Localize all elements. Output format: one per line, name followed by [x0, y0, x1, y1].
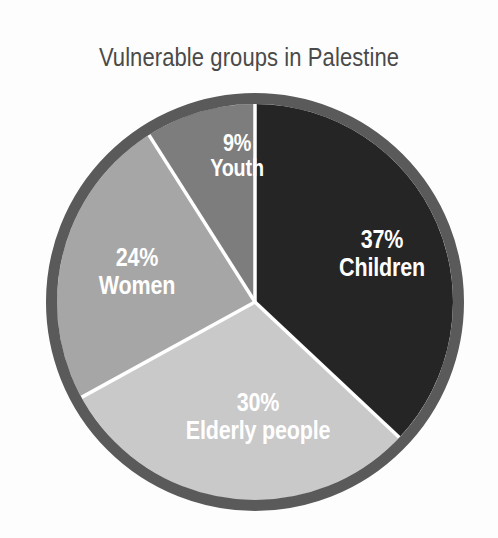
pie-chart-graphic: 37% Children 30% Elderly people 24% Wome…	[0, 0, 498, 538]
pie-svg	[0, 0, 498, 538]
pie-chart-figure: Vulnerable groups in Palestine 37% Child…	[0, 0, 498, 538]
